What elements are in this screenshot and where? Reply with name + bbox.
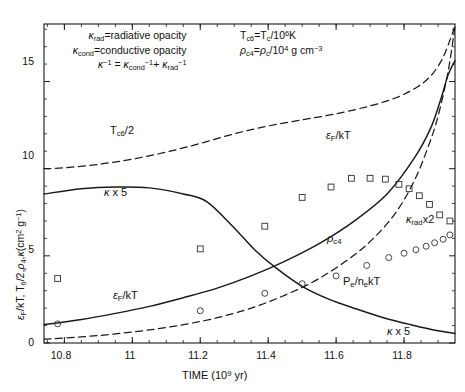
marker-square bbox=[447, 218, 453, 224]
curve-kappa-x-5 bbox=[44, 187, 455, 334]
marker-square bbox=[197, 246, 203, 252]
marker-square bbox=[299, 195, 305, 201]
curve-e-f-kt bbox=[44, 61, 455, 325]
marker-circle bbox=[386, 255, 392, 261]
marker-square bbox=[382, 176, 388, 182]
data-markers bbox=[55, 175, 453, 326]
figure-container: εF/kT, T6/2,ρ4,κ(cm2 g−1) 15 10 5 0 10.8… bbox=[0, 0, 465, 392]
marker-square bbox=[416, 193, 422, 199]
marker-square bbox=[427, 202, 433, 208]
plot-frame bbox=[44, 24, 455, 343]
marker-circle bbox=[333, 273, 339, 279]
marker-square bbox=[262, 223, 268, 229]
marker-circle bbox=[262, 290, 268, 296]
curve-t-c6-2 bbox=[44, 26, 455, 169]
axis-ticks bbox=[44, 24, 455, 343]
marker-circle bbox=[423, 243, 429, 249]
marker-circle bbox=[401, 250, 407, 256]
marker-circle bbox=[413, 247, 419, 253]
marker-circle bbox=[432, 240, 438, 246]
marker-circle bbox=[197, 308, 203, 314]
curve-rho-c4-kappa-rad-x2 bbox=[44, 26, 455, 339]
marker-square bbox=[328, 184, 334, 190]
marker-square bbox=[367, 175, 373, 181]
marker-square bbox=[55, 276, 61, 282]
marker-circle bbox=[440, 236, 446, 242]
plot-svg bbox=[0, 0, 465, 392]
data-curves bbox=[44, 26, 455, 339]
marker-square bbox=[349, 175, 355, 181]
marker-circle bbox=[447, 232, 453, 238]
marker-circle bbox=[364, 262, 370, 268]
marker-square bbox=[437, 212, 443, 218]
